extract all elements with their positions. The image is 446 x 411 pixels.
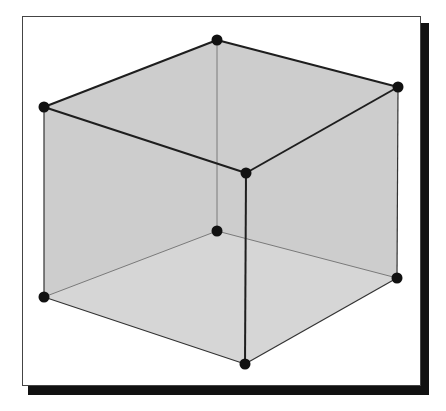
vertex-left-bottom <box>39 292 50 303</box>
cube-diagram <box>0 0 446 411</box>
vertex-left-top <box>39 102 50 113</box>
vertex-right-bottom <box>392 273 403 284</box>
vertex-right-top <box>393 82 404 93</box>
vertex-back-bottom <box>212 226 223 237</box>
vertex-front-top <box>241 168 252 179</box>
vertex-front-bottom <box>240 359 251 370</box>
vertex-back-top <box>212 35 223 46</box>
